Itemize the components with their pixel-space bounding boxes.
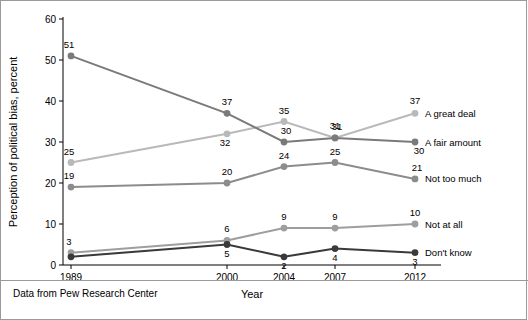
x-tick-label: 2012	[404, 272, 427, 283]
data-point	[281, 118, 288, 125]
data-label: 37	[222, 96, 233, 107]
data-label: 31	[330, 120, 341, 131]
data-label: 6	[224, 223, 229, 234]
data-label: 3	[412, 256, 417, 267]
data-point	[281, 225, 288, 232]
y-tick-label: 30	[45, 137, 57, 148]
data-label: 37	[410, 95, 421, 106]
data-point	[332, 135, 339, 142]
data-label: 25	[64, 146, 75, 157]
footer-divider	[1, 280, 528, 281]
data-label: 2	[281, 260, 286, 271]
data-label: 51	[64, 39, 75, 50]
x-tick-label: 2004	[273, 272, 296, 283]
data-label: 10	[410, 207, 421, 218]
y-tick-label: 0	[50, 260, 56, 271]
data-point	[68, 53, 75, 60]
data-label: 25	[330, 146, 341, 157]
x-tick-label: 2000	[216, 272, 239, 283]
data-point	[332, 159, 339, 166]
data-label: 9	[281, 211, 286, 222]
data-label: 30	[414, 145, 425, 156]
x-tick-label: 1989	[60, 272, 83, 283]
data-point	[281, 163, 288, 170]
data-point	[68, 253, 75, 260]
data-label: 3	[66, 236, 71, 247]
data-label: 35	[279, 105, 290, 116]
chart-plot-area: 010203040506019892000200420072012YearPer…	[1, 1, 528, 320]
data-label: 32	[220, 137, 231, 148]
data-point	[412, 176, 419, 183]
series-label: Not too much	[425, 173, 482, 184]
y-tick-label: 40	[45, 96, 57, 107]
y-axis-title: Perception of political bias, percent	[7, 57, 19, 228]
chart-caption: Data from Pew Research Center	[13, 288, 158, 299]
data-label: 24	[279, 150, 290, 161]
data-point	[332, 225, 339, 232]
data-label: 5	[224, 248, 229, 259]
data-label: 30	[281, 125, 292, 136]
data-point	[224, 180, 231, 187]
data-label: 19	[64, 170, 75, 181]
series-label: A fair amount	[425, 137, 481, 148]
x-axis-title: Year	[241, 288, 264, 300]
data-point	[281, 139, 288, 146]
line-chart-svg: 010203040506019892000200420072012YearPer…	[1, 1, 528, 320]
series-line	[71, 245, 415, 257]
data-label: 21	[412, 162, 423, 173]
x-tick-label: 2007	[324, 272, 347, 283]
y-tick-label: 50	[45, 55, 57, 66]
series-label: Don't know	[425, 247, 472, 258]
data-label: 20	[222, 166, 233, 177]
series-label: A great deal	[425, 108, 476, 119]
y-tick-label: 60	[45, 14, 57, 25]
data-label: 4	[332, 252, 337, 263]
data-point	[68, 159, 75, 166]
data-point	[68, 184, 75, 191]
series-4: 369910Not at all	[66, 207, 462, 256]
data-point	[412, 221, 419, 228]
data-point	[412, 110, 419, 117]
series-5: 5243Don't know	[68, 241, 472, 271]
data-label: 9	[332, 211, 337, 222]
y-tick-label: 20	[45, 178, 57, 189]
series-label: Not at all	[425, 219, 463, 230]
data-point	[224, 110, 231, 117]
y-tick-label: 10	[45, 219, 57, 230]
series-line	[71, 163, 415, 188]
